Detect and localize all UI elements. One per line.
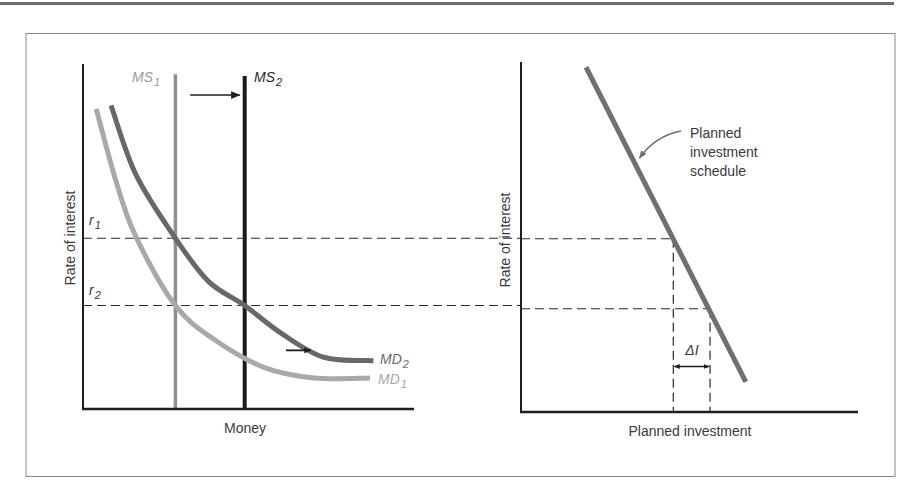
label-md1-sub: 1 xyxy=(401,378,407,390)
left-y-axis-label: Rate of interest xyxy=(62,190,78,285)
page-top-rule xyxy=(0,2,894,5)
diagram: Rate of interest Money r1 r2 MS1 MS2 MD2… xyxy=(0,0,914,502)
label-ms1-sub: 1 xyxy=(154,76,160,88)
series-md2-curve xyxy=(111,105,373,360)
callout-line-3: schedule xyxy=(690,163,746,179)
investment-schedule-line xyxy=(586,67,746,382)
label-md2-sub: 2 xyxy=(402,358,409,370)
callout-text: Planned investment schedule xyxy=(690,125,762,179)
label-ms1-main: MS xyxy=(132,69,154,85)
series-md1-curve xyxy=(96,109,370,379)
tick-r1-sub: 1 xyxy=(95,219,101,231)
tick-label-r2: r2 xyxy=(89,282,101,301)
label-ms2-sub: 2 xyxy=(275,76,282,88)
label-md2-main: MD xyxy=(380,351,402,367)
label-md2: MD2 xyxy=(380,351,409,370)
callout-line-1: Planned xyxy=(690,125,741,141)
callout-line-2: investment xyxy=(690,144,758,160)
label-ms2-main: MS xyxy=(254,69,276,85)
label-ms2: MS2 xyxy=(254,69,282,88)
money-market-panel: Rate of interest Money r1 r2 MS1 MS2 MD2… xyxy=(62,64,521,436)
investment-panel: Rate of interest Planned investment Plan… xyxy=(497,62,858,439)
right-x-axis-label: Planned investment xyxy=(629,423,752,439)
delta-i-label: ΔI xyxy=(684,342,698,358)
tick-label-r1: r1 xyxy=(89,212,101,231)
label-md1: MD1 xyxy=(378,371,407,390)
left-x-axis-label: Money xyxy=(224,420,266,436)
right-y-axis-label: Rate of interest xyxy=(497,192,513,287)
callout-arrow xyxy=(640,131,681,158)
tick-r2-sub: 2 xyxy=(94,289,101,301)
label-ms1: MS1 xyxy=(132,69,160,88)
label-md1-main: MD xyxy=(378,371,400,387)
